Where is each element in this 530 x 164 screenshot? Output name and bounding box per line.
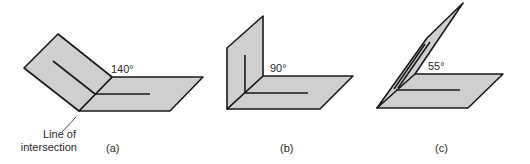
diagram-b: 90° (b) bbox=[227, 16, 353, 154]
caption-b: (b) bbox=[280, 142, 293, 154]
angle-label-b: 90° bbox=[270, 62, 287, 74]
diagram-a: 140° Line of intersection (a) bbox=[21, 34, 203, 154]
annotation-line2: intersection bbox=[21, 141, 77, 153]
angle-label-a: 140° bbox=[111, 63, 134, 75]
caption-c: (c) bbox=[435, 142, 448, 154]
diagram-c: 55° (c) bbox=[377, 3, 503, 154]
angle-label-c: 55° bbox=[428, 60, 445, 72]
caption-a: (a) bbox=[106, 142, 119, 154]
annotation-line1: Line of bbox=[43, 128, 77, 140]
dihedral-angles-diagram: 140° Line of intersection (a) 90° (b) 55… bbox=[0, 0, 530, 164]
